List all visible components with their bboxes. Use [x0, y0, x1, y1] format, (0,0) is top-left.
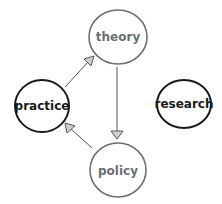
edge-theory-to-policy	[111, 67, 123, 139]
node-research[interactable]: research	[154, 80, 213, 128]
node-theory[interactable]: theory	[89, 10, 147, 64]
node-practice-label: practice	[15, 99, 70, 113]
node-practice[interactable]: practice	[15, 80, 70, 132]
node-theory-label: theory	[96, 30, 141, 44]
edge-practice-to-theory	[65, 56, 94, 87]
node-policy[interactable]: policy	[90, 143, 146, 197]
edge-policy-to-practice	[65, 123, 92, 148]
node-research-label: research	[154, 97, 213, 111]
node-policy-label: policy	[98, 164, 138, 178]
arrowhead-icon	[111, 131, 123, 139]
diagram-canvas: theory practice research policy	[0, 0, 222, 204]
